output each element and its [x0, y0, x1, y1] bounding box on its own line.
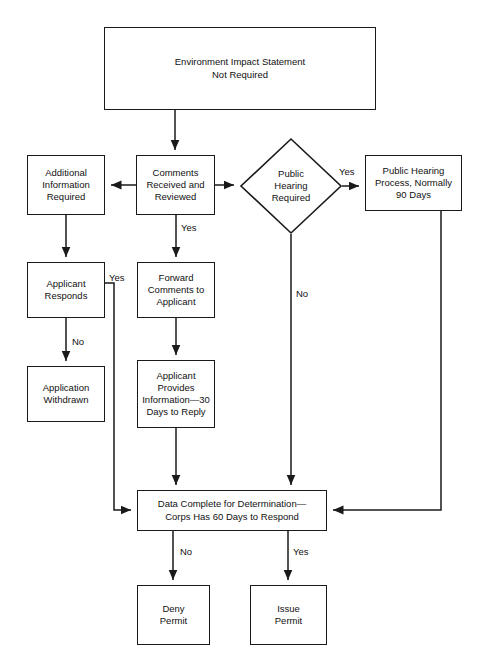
node-label: Forward Comments to Applicant	[148, 272, 205, 308]
node-additional-information-required: Additional Information Required	[27, 155, 105, 215]
edge-applicant-responds-yes-to-data-complete	[105, 283, 131, 510]
node-label: Data Complete for Determination— Corps H…	[158, 498, 306, 522]
edge-label-comments-yes: Yes	[181, 222, 197, 233]
node-label: Issue Permit	[275, 603, 302, 627]
node-deny-permit: Deny Permit	[137, 585, 210, 645]
flowchart-diagram: Environment Impact Statement Not Require…	[0, 0, 477, 664]
edge-label-hearing-no: No	[296, 288, 308, 299]
edge-label-hearing-yes: Yes	[339, 166, 355, 177]
edge-label-data-complete-no: No	[180, 546, 192, 557]
node-applicant-responds: Applicant Responds	[27, 262, 105, 318]
node-label: Environment Impact Statement Not Require…	[175, 56, 305, 80]
edge-label-applicant-responds-no: No	[72, 336, 84, 347]
node-application-withdrawn: Application Withdrawn	[27, 366, 105, 422]
node-label: Application Withdrawn	[43, 382, 89, 406]
node-applicant-provides-information: Applicant Provides Information—30 Days t…	[137, 360, 215, 428]
node-comments-received-and-reviewed: Comments Received and Reviewed	[136, 155, 215, 215]
edge-label-applicant-responds-yes: Yes	[109, 272, 125, 283]
node-data-complete-for-determination: Data Complete for Determination— Corps H…	[137, 490, 327, 531]
node-forward-comments-to-applicant: Forward Comments to Applicant	[137, 262, 215, 318]
node-label: Comments Received and Reviewed	[146, 167, 204, 203]
node-public-hearing-process: Public Hearing Process, Normally 90 Days	[365, 155, 462, 211]
node-eis-not-required: Environment Impact Statement Not Require…	[104, 27, 376, 110]
node-label: Additional Information Required	[42, 167, 90, 203]
node-label: Applicant Responds	[45, 278, 88, 302]
node-issue-permit: Issue Permit	[250, 585, 327, 645]
edge-label-data-complete-yes: Yes	[293, 546, 309, 557]
node-label: Applicant Provides Information—30 Days t…	[142, 370, 210, 419]
edge-hearing-process-to-data-complete	[333, 211, 441, 510]
node-label: Deny Permit	[160, 603, 187, 627]
node-label: Public Hearing Process, Normally 90 Days	[375, 165, 452, 201]
node-label: Public Hearing Required	[240, 138, 342, 234]
node-public-hearing-required: Public Hearing Required	[240, 138, 342, 234]
